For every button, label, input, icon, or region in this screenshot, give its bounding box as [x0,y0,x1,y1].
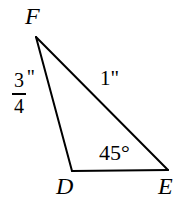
fraction-denominator: 4 [12,96,26,117]
vertex-label-d: D [56,174,73,198]
side-fd-measure-label: 3 " 4 [12,70,42,117]
angle-e-measure-label: 45° [99,142,130,164]
side-fe-measure-label: 1" [100,68,119,89]
vertex-label-e: E [158,174,173,198]
vertex-label-f: F [25,4,40,28]
inch-mark-icon: " [27,67,35,88]
fraction-numerator: 3 [14,70,24,91]
side-de-line [72,170,168,171]
fraction-three-quarters: 3 " 4 [12,70,26,117]
fraction-numerator-row: 3 " [12,70,26,92]
